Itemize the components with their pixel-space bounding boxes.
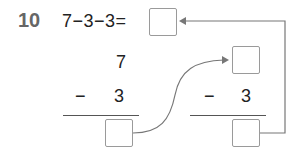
flow-arrows bbox=[0, 0, 299, 158]
arrowhead-icon bbox=[179, 17, 186, 25]
curved-arrow-icon bbox=[133, 60, 224, 133]
return-arrow-icon bbox=[185, 21, 285, 133]
arrowhead-icon bbox=[222, 56, 229, 64]
